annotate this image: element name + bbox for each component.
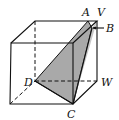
label-a: A [81, 6, 90, 19]
label-w: W [101, 76, 114, 89]
label-c: C [67, 108, 76, 120]
cube-diagram: A V B D W C [0, 0, 119, 120]
label-d: D [23, 76, 33, 89]
label-v: V [97, 6, 106, 19]
label-b: B [105, 22, 114, 35]
